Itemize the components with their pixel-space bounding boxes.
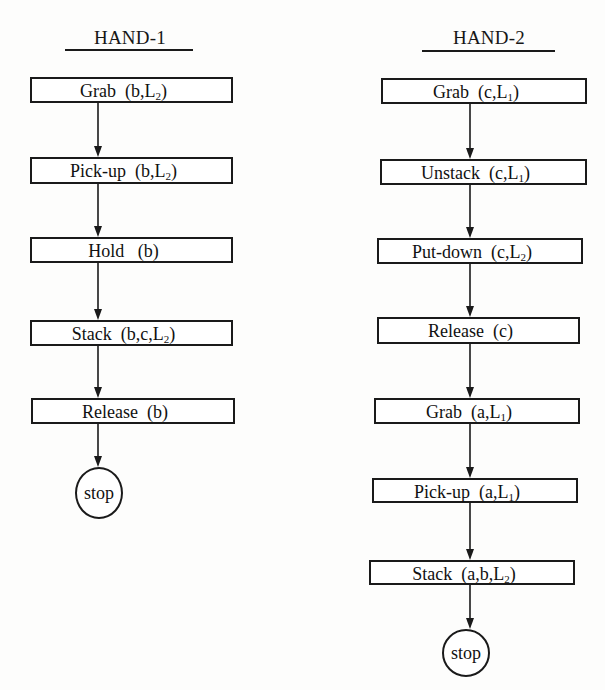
hand-1-step-2: Pick-up (b,L2) xyxy=(30,157,233,184)
step-label: Grab (c,L1) xyxy=(433,81,519,103)
step-args-close: ) xyxy=(524,163,530,183)
step-action: Grab xyxy=(433,82,469,102)
hand-2-step-5: Grab (a,L1) xyxy=(374,398,580,424)
hand-2-stop-node: stop xyxy=(442,629,490,677)
arrowhead-icon xyxy=(94,226,102,237)
step-label: Hold (b) xyxy=(88,240,159,262)
step-args: (b,L xyxy=(135,161,166,181)
step-args: (c) xyxy=(493,321,513,341)
hand-2-step-4: Release (c) xyxy=(377,317,580,344)
step-action: Release xyxy=(82,402,138,422)
stop-label: stop xyxy=(84,483,114,504)
step-action: Release xyxy=(428,321,484,341)
step-args-close: ) xyxy=(510,564,516,584)
hand-1-stop-node: stop xyxy=(75,467,123,519)
step-args: (b) xyxy=(133,241,159,261)
arrowhead-icon xyxy=(466,227,474,238)
arrowhead-icon xyxy=(94,456,102,467)
step-action: Grab xyxy=(426,402,462,422)
hand-2-title: HAND-2 xyxy=(423,27,555,49)
arrowhead-icon xyxy=(94,309,102,320)
hand-1-title: HAND-1 xyxy=(66,27,194,49)
step-args: (a,L xyxy=(479,482,508,502)
step-args-close: ) xyxy=(513,82,519,102)
hand-2-step-1: Grab (c,L1) xyxy=(381,78,587,104)
step-args-close: ) xyxy=(169,324,175,344)
step-action: Unstack xyxy=(421,163,480,183)
step-args: (a,L xyxy=(471,402,500,422)
arrowhead-icon xyxy=(466,549,474,560)
step-label: Stack (b,c,L2) xyxy=(72,323,175,345)
arrowhead-icon xyxy=(466,148,474,159)
arrowhead-icon xyxy=(466,387,474,398)
step-args-close: ) xyxy=(506,402,512,422)
hand-1-step-5: Release (b) xyxy=(31,398,235,424)
hand-1-step-4: Stack (b,c,L2) xyxy=(30,320,233,346)
step-action: Grab xyxy=(80,81,116,101)
hand-1-step-3: Hold (b) xyxy=(30,237,233,263)
step-args: (c,L xyxy=(478,82,507,102)
step-action: Stack xyxy=(412,564,452,584)
step-args: (c,L xyxy=(491,242,520,262)
step-args-close: ) xyxy=(171,161,177,181)
stop-label: stop xyxy=(451,643,481,664)
hand-1-step-1: Grab (b,L2) xyxy=(30,77,233,103)
step-action: Put-down xyxy=(412,242,482,262)
hand-2-step-6: Pick-up (a,L1) xyxy=(372,478,578,503)
title-underline xyxy=(65,49,193,51)
step-args: (c,L xyxy=(489,163,518,183)
hand-2-step-7: Stack (a,b,L2) xyxy=(369,560,575,585)
title-underline xyxy=(422,50,555,52)
step-args: (b) xyxy=(147,402,168,422)
step-action: Pick-up xyxy=(414,482,470,502)
arrowhead-icon xyxy=(466,618,474,629)
step-args-close: ) xyxy=(526,242,532,262)
step-action: Hold xyxy=(88,241,124,261)
step-action: Pick-up xyxy=(70,161,126,181)
step-args: (b,c,L xyxy=(121,324,164,344)
diagram-canvas: HAND-1 Grab (b,L2) Pick-up (b,L2) Hold (… xyxy=(0,0,605,690)
step-label: Put-down (c,L2) xyxy=(412,241,532,263)
arrowhead-icon xyxy=(94,146,102,157)
step-label: Unstack (c,L1) xyxy=(421,162,530,184)
step-label: Release (c) xyxy=(428,320,513,342)
step-args-close: ) xyxy=(161,81,167,101)
hand-2-step-2: Unstack (c,L1) xyxy=(380,159,587,185)
step-label: Stack (a,b,L2) xyxy=(412,563,515,585)
step-label: Release (b) xyxy=(82,401,168,423)
hand-2-step-3: Put-down (c,L2) xyxy=(377,238,583,264)
arrowhead-icon xyxy=(466,306,474,317)
arrowhead-icon xyxy=(94,387,102,398)
step-args: (b,L xyxy=(125,81,156,101)
step-args-close: ) xyxy=(514,482,520,502)
step-label: Pick-up (a,L1) xyxy=(414,481,520,503)
step-label: Pick-up (b,L2) xyxy=(70,160,177,182)
step-label: Grab (a,L1) xyxy=(426,401,512,423)
step-label: Grab (b,L2) xyxy=(80,80,167,102)
step-action: Stack xyxy=(72,324,112,344)
step-args: (a,b,L xyxy=(461,564,504,584)
arrowhead-icon xyxy=(466,467,474,478)
